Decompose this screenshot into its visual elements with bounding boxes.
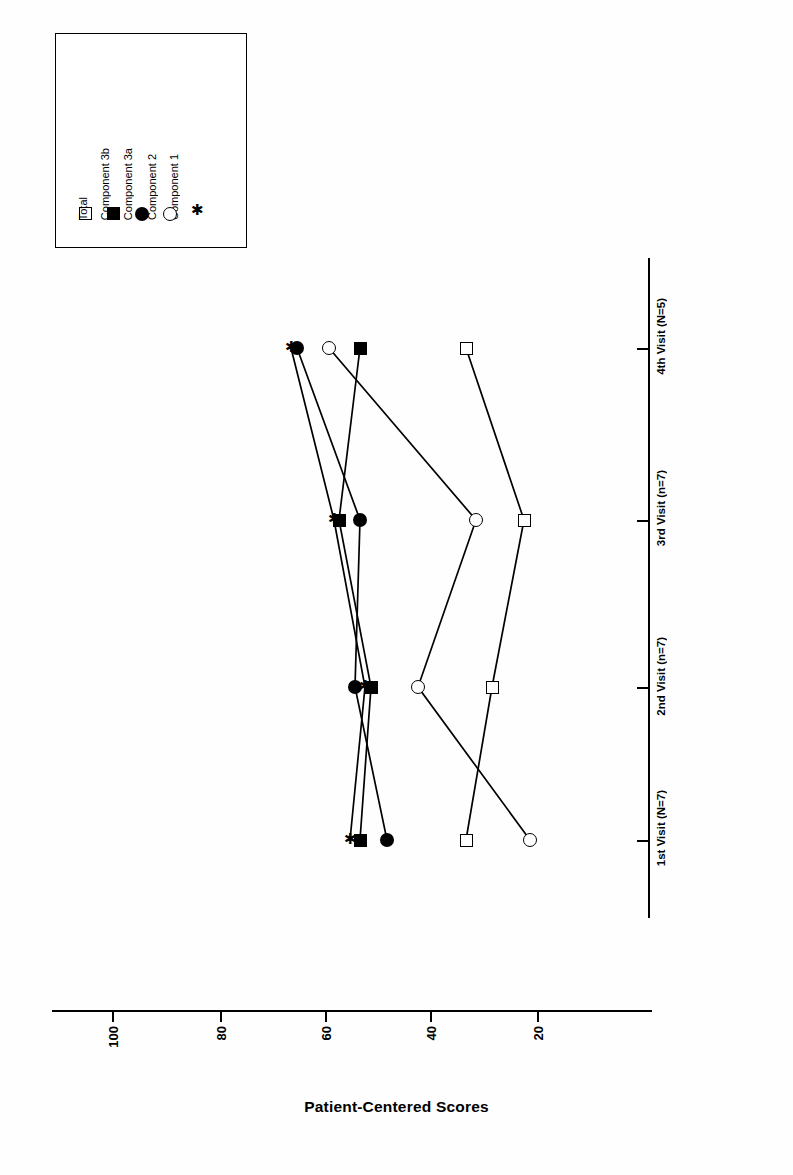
value-axis-line — [52, 1010, 652, 1012]
category-label-visit3: 3rd Visit (n=7) — [655, 470, 667, 546]
category-tick-visit3 — [637, 520, 648, 522]
value-label-80: 80 — [214, 1026, 229, 1040]
value-axis-title: Patient-Centered Scores — [0, 1098, 793, 1116]
data-point-component-1-visit2 — [486, 681, 499, 694]
value-tick-40 — [430, 1011, 432, 1022]
data-point-component-1-visit3 — [518, 514, 531, 527]
data-point-component-2-visit4 — [354, 342, 367, 355]
data-point-component-3b-visit4 — [322, 341, 336, 355]
data-point-component-3a-visit3 — [353, 513, 367, 527]
data-point-total-visit2: ✱ — [359, 682, 371, 694]
value-tick-100 — [112, 1011, 114, 1022]
data-point-component-1-visit4 — [460, 342, 473, 355]
category-label-visit4: 4th Visit (N=5) — [655, 298, 667, 375]
data-point-component-3a-visit1 — [380, 833, 394, 847]
series-lines — [0, 0, 793, 1175]
category-axis-line — [648, 258, 650, 918]
data-point-component-3b-visit2 — [411, 680, 425, 694]
data-point-component-1-visit1 — [460, 834, 473, 847]
data-point-component-3b-visit1 — [523, 833, 537, 847]
plot-area: ✱ ✱ ✱ ✱ 1st Visit (N=7) 2nd Visit (n=7) … — [0, 0, 793, 1175]
value-label-60: 60 — [319, 1026, 334, 1040]
data-point-total-visit1: ✱ — [344, 835, 356, 847]
value-tick-60 — [325, 1011, 327, 1022]
category-label-visit2: 2nd Visit (n=7) — [655, 637, 667, 716]
value-label-40: 40 — [424, 1026, 439, 1040]
data-point-total-visit3: ✱ — [328, 515, 340, 527]
category-tick-visit4 — [637, 348, 648, 350]
value-label-20: 20 — [531, 1026, 546, 1040]
data-point-total-visit4: ✱ — [285, 343, 297, 355]
value-tick-20 — [537, 1011, 539, 1022]
data-point-component-3b-visit3 — [469, 513, 483, 527]
category-tick-visit1 — [637, 840, 648, 842]
value-label-100: 100 — [106, 1026, 121, 1048]
value-tick-80 — [220, 1011, 222, 1022]
category-label-visit1: 1st Visit (N=7) — [655, 790, 667, 866]
category-tick-visit2 — [637, 687, 648, 689]
chart-canvas: Component 1 Component 2 Component 3a Com… — [0, 0, 793, 1175]
